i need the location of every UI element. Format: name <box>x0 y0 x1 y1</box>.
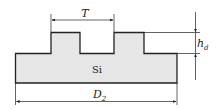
height-label: hd <box>197 37 209 52</box>
period-label: T <box>81 7 90 20</box>
width-dimension: D2 <box>16 83 178 105</box>
width-label: D2 <box>92 88 107 103</box>
period-dimension: T <box>51 7 114 32</box>
silicon-profile <box>16 33 178 84</box>
silicon-grating-diagram: Si T hd D2 <box>0 0 219 110</box>
material-label: Si <box>92 64 102 75</box>
